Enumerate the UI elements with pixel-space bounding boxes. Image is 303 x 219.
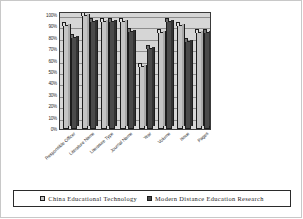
- chart-legend: China Educational Technology Modern Dist…: [13, 190, 291, 207]
- bar-0: [101, 21, 107, 129]
- chart-figure: 100%90%80%70%60%50%40%30%20%10%0% Respon…: [0, 0, 302, 218]
- bar-0: [139, 66, 145, 129]
- bar-1: [204, 32, 210, 129]
- plot-area: [59, 12, 211, 130]
- legend-label-series-0: China Educational Technology: [48, 195, 137, 203]
- bar-top-face: [81, 12, 85, 16]
- bar-top-face: [176, 22, 180, 26]
- bar-1: [90, 21, 96, 129]
- y-axis-tick-label: 60%: [48, 59, 57, 64]
- y-axis-tick-label: 70%: [48, 47, 57, 52]
- bar-top-face: [100, 18, 104, 22]
- bar-group: [60, 13, 79, 129]
- x-axis-tick-label: Year: [142, 131, 152, 141]
- bar-1: [166, 21, 172, 129]
- bar-1: [109, 21, 115, 129]
- y-axis: 100%90%80%70%60%50%40%30%20%10%0%: [41, 7, 59, 131]
- bar-top-face: [195, 29, 199, 33]
- bar-group: [174, 13, 193, 129]
- bar-series-container: [60, 13, 210, 129]
- bar-top-face: [157, 29, 161, 33]
- bar-top-face: [165, 18, 169, 22]
- y-axis-tick-label: 40%: [48, 81, 57, 86]
- y-axis-tick-label: 20%: [48, 104, 57, 109]
- legend-item-series-1: Modern Distance Education Research: [147, 195, 264, 203]
- bar-top-face: [138, 63, 142, 67]
- bar-0: [63, 25, 69, 129]
- bar-top-face: [119, 18, 123, 22]
- bar-top-face: [184, 38, 188, 42]
- bar-0: [82, 15, 88, 129]
- bar-1: [71, 37, 77, 129]
- bar-group: [136, 13, 155, 129]
- bar-1: [147, 48, 153, 129]
- y-axis-tick-label: 30%: [48, 93, 57, 98]
- legend-swatch-series-0-icon: [40, 196, 45, 201]
- legend-swatch-series-1-icon: [147, 196, 152, 201]
- y-axis-tick-label: 0%: [51, 127, 57, 132]
- y-axis-tick-label: 10%: [48, 116, 57, 121]
- bar-0: [158, 32, 164, 129]
- y-axis-tick-label: 100%: [46, 13, 57, 18]
- bar-group: [117, 13, 136, 129]
- bar-0: [196, 32, 202, 129]
- bar-1: [185, 41, 191, 129]
- y-axis-tick-label: 80%: [48, 36, 57, 41]
- bar-0: [120, 21, 126, 129]
- bar-top-face: [127, 28, 131, 32]
- bar-top-face: [146, 45, 150, 49]
- y-axis-tick-label: 50%: [48, 70, 57, 75]
- bar-top-face: [89, 18, 93, 22]
- bar-1: [128, 31, 134, 129]
- x-axis-tick-label: Issue: [179, 131, 191, 142]
- bar-top-face: [108, 18, 112, 22]
- chart-container: 100%90%80%70%60%50%40%30%20%10%0% Respon…: [41, 7, 241, 135]
- bar-top-face: [70, 34, 74, 38]
- y-axis-tick-label: 90%: [48, 24, 57, 29]
- legend-item-series-0: China Educational Technology: [40, 195, 137, 203]
- legend-label-series-1: Modern Distance Education Research: [155, 195, 264, 203]
- x-axis-tick-label: Volume: [156, 131, 171, 145]
- bar-0: [177, 25, 183, 129]
- bar-top-face: [203, 29, 207, 33]
- bar-group: [155, 13, 174, 129]
- bar-group: [79, 13, 98, 129]
- bar-group: [98, 13, 117, 129]
- bar-group: [193, 13, 211, 129]
- bar-top-face: [62, 22, 66, 26]
- bar-side-face: [209, 31, 211, 126]
- x-axis-tick-label: Pages: [196, 131, 209, 144]
